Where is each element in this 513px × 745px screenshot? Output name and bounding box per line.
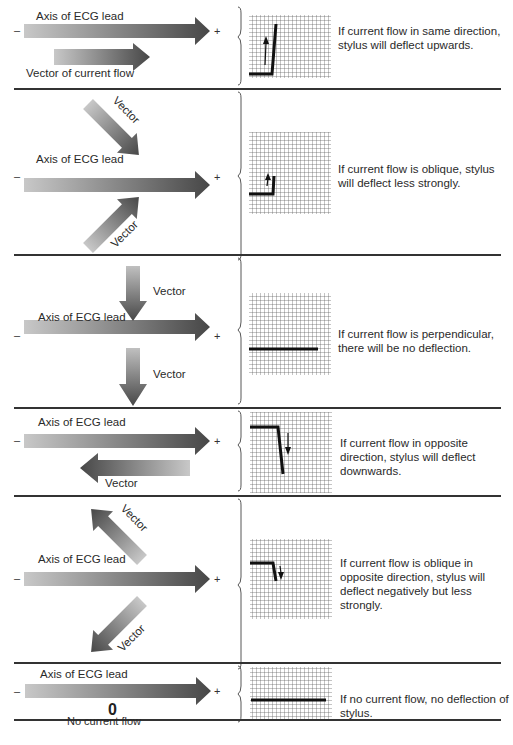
minus-sign: – (14, 434, 20, 446)
panel-divider (14, 407, 501, 409)
vector-label-top: Vector (153, 285, 186, 297)
panel-description: If no current flow, no deflection of sty… (340, 692, 510, 720)
panel-6-arrows (25, 677, 211, 705)
brace (238, 258, 241, 404)
vector-label: Vector of current flow (26, 67, 134, 79)
axis-label: Axis of ECG lead (36, 153, 124, 165)
ecg-grid (250, 412, 332, 493)
axis-label: Axis of ECG lead (38, 311, 126, 323)
minus-sign: – (14, 24, 20, 36)
vector-arrow-bottom (78, 187, 149, 258)
minus-sign: – (14, 170, 20, 182)
vector-label-bottom: Vector (153, 368, 186, 380)
diagram-artwork (0, 0, 513, 745)
vector-label: Vector (105, 477, 138, 489)
panel-same-direction: Axis of ECG lead – + Vector of current f… (0, 0, 513, 88)
axis-label: Axis of ECG lead (40, 668, 128, 680)
brace (238, 411, 241, 491)
ecg-grid (250, 539, 332, 619)
brace (238, 92, 241, 260)
axis-label: Axis of ECG lead (38, 416, 126, 428)
panel-5-arrows (24, 499, 210, 662)
plus-sign: + (214, 435, 220, 447)
panel-description: If current flow in same direction, stylu… (338, 24, 508, 52)
axis-label: Axis of ECG lead (38, 553, 126, 565)
panel-description: If current flow is perpendicular, there … (338, 327, 508, 355)
vector-label: No current flow (67, 715, 141, 727)
panel-divider (14, 662, 501, 664)
plus-sign: + (214, 573, 220, 585)
plus-sign: + (214, 25, 220, 37)
plus-sign: + (214, 685, 220, 697)
minus-sign: – (14, 329, 20, 341)
ecg-grid (249, 293, 331, 375)
panel-divider (14, 495, 501, 497)
vector-arrow-bottom (119, 348, 147, 406)
minus-sign: – (14, 572, 20, 584)
axis-label: Axis of ECG lead (36, 10, 124, 22)
panel-description: If current flow is oblique, stylus will … (338, 162, 508, 190)
panel-description: If current flow is oblique in opposite d… (340, 556, 510, 612)
ecg-grid (249, 132, 331, 214)
minus-sign: – (14, 685, 20, 697)
panel-4-arrows (24, 427, 210, 483)
plus-sign: + (214, 330, 220, 342)
ecg-grid (250, 667, 332, 719)
panel-divider (14, 88, 501, 90)
brace (238, 666, 241, 722)
plus-sign: + (214, 171, 220, 183)
brace (238, 499, 241, 669)
panel-divider (14, 254, 501, 256)
panel-description: If current flow in opposite direction, s… (340, 436, 510, 478)
